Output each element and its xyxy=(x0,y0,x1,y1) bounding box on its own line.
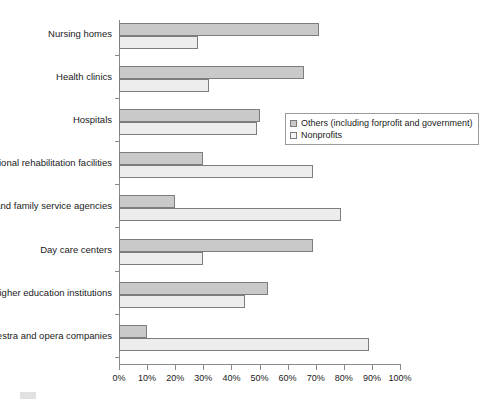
bar-nonprofits xyxy=(119,122,257,135)
x-axis-tick xyxy=(147,365,148,370)
category-tick xyxy=(115,141,119,142)
bar-others xyxy=(119,23,319,36)
bar-others xyxy=(119,152,203,165)
category-tick xyxy=(115,227,119,228)
bar-others xyxy=(119,282,268,295)
x-axis-tick xyxy=(316,365,317,370)
legend-entry-nonprofits: Nonprofits xyxy=(290,129,473,141)
category-label: Higher education institutions xyxy=(0,287,112,298)
legend-label-others: Others (including forprofit and governme… xyxy=(301,117,473,129)
category-label: Vocational rehabilitation facilities xyxy=(0,157,112,168)
horizontal-bar-chart: 0%10%20%30%40%50%60%70%80%90%100% Others… xyxy=(0,0,498,400)
bar-others xyxy=(119,109,260,122)
category-tick xyxy=(115,184,119,185)
category-label: Orchestra and opera companies xyxy=(0,330,112,341)
x-axis-tick xyxy=(119,365,120,370)
legend-label-nonprofits: Nonprofits xyxy=(301,129,342,141)
bar-nonprofits xyxy=(119,295,245,308)
x-axis-tick xyxy=(344,365,345,370)
bar-group xyxy=(119,325,400,351)
x-axis-tick xyxy=(231,365,232,370)
legend-swatch-nonprofits-icon xyxy=(290,132,297,139)
bar-nonprofits xyxy=(119,208,341,221)
category-label: Day care centers xyxy=(0,244,112,255)
x-axis-tick xyxy=(372,365,373,370)
category-tick xyxy=(115,55,119,56)
footer-swatch-icon xyxy=(20,392,36,399)
legend-swatch-others-icon xyxy=(290,120,297,127)
bar-nonprofits xyxy=(119,338,369,351)
bar-group xyxy=(119,239,400,265)
bar-nonprofits xyxy=(119,36,198,49)
bar-nonprofits xyxy=(119,165,313,178)
bar-nonprofits xyxy=(119,79,209,92)
x-axis-tick xyxy=(400,365,401,370)
bar-group xyxy=(119,66,400,92)
x-axis-tick xyxy=(288,365,289,370)
bar-group xyxy=(119,23,400,49)
category-label: Nursing homes xyxy=(0,28,112,39)
x-axis-tick xyxy=(175,365,176,370)
bar-others xyxy=(119,66,304,79)
chart-legend: Others (including forprofit and governme… xyxy=(285,113,479,145)
category-tick xyxy=(115,357,119,358)
category-tick xyxy=(115,98,119,99)
category-label: Hospitals xyxy=(0,114,112,125)
bar-group xyxy=(119,195,400,221)
cropped-footer-artifact xyxy=(20,392,42,399)
bar-nonprofits xyxy=(119,252,203,265)
x-axis-tick xyxy=(260,365,261,370)
bar-group xyxy=(119,152,400,178)
legend-entry-others: Others (including forprofit and governme… xyxy=(290,117,473,129)
category-tick xyxy=(115,271,119,272)
category-label: Individual and family service agencies xyxy=(0,200,112,211)
bar-group xyxy=(119,282,400,308)
x-axis-tick xyxy=(203,365,204,370)
category-tick xyxy=(115,314,119,315)
plot-area: 0%10%20%30%40%50%60%70%80%90%100% xyxy=(119,20,400,365)
bar-others xyxy=(119,239,313,252)
category-label: Health clinics xyxy=(0,71,112,82)
bar-others xyxy=(119,325,147,338)
x-axis-tick-label: 100% xyxy=(380,373,420,383)
bar-others xyxy=(119,195,175,208)
